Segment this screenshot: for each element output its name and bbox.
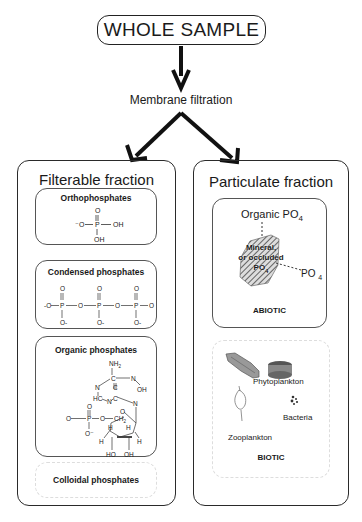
particulate-fraction-title: Particulate fraction xyxy=(194,173,348,190)
svg-text:O: O xyxy=(120,408,125,415)
bacteria-label: Bacteria xyxy=(283,413,312,422)
svg-text:O: O xyxy=(134,285,139,292)
svg-text:H: H xyxy=(99,438,104,445)
mineral-po4-label: Mineral, or occluded PO4 xyxy=(233,243,289,276)
svg-text:OH: OH xyxy=(113,221,124,228)
zooplankton-icon xyxy=(235,386,246,421)
condensed-phosphates-box: Condensed phosphates -O OPO- O OPO- O OP… xyxy=(35,260,157,329)
organic-phosphates-box: Organic phosphates NH2 C N N C OH HC N C… xyxy=(35,336,157,457)
svg-text:⁻O: ⁻O xyxy=(75,221,85,228)
svg-text:O: O xyxy=(60,285,65,292)
orthophosphates-box: Orthophosphates O ⁻O P OH OH xyxy=(35,188,157,245)
svg-text:O-: O- xyxy=(97,319,104,326)
svg-text:O-: O- xyxy=(60,319,67,326)
phytoplankton-label: Phytoplankton xyxy=(253,377,304,386)
biotic-box: Phytoplankton Bacteria Zooplankton BIOTI… xyxy=(212,340,330,478)
svg-text:O: O xyxy=(87,403,92,410)
svg-text:P: P xyxy=(97,302,101,309)
abiotic-label: ABIOTIC xyxy=(213,306,326,315)
svg-text:H: H xyxy=(126,424,131,431)
svg-text:C: C xyxy=(111,375,116,382)
flow-arrows xyxy=(0,0,362,170)
svg-text:O⁻: O⁻ xyxy=(85,430,94,437)
svg-text:CH2: CH2 xyxy=(114,415,126,424)
svg-text:O: O xyxy=(95,207,101,214)
svg-text:-O: -O xyxy=(44,302,51,309)
zooplankton-label: Zooplankton xyxy=(228,433,272,442)
svg-text:P: P xyxy=(60,302,64,309)
filterable-fraction-title: Filterable fraction xyxy=(18,171,175,188)
svg-text:C: C xyxy=(113,395,118,402)
condensed-phosphate-structure: -O OPO- O OPO- O OPO- O xyxy=(36,261,158,330)
svg-text:H: H xyxy=(137,438,142,445)
adsorbed-po4-label: PO 4 xyxy=(301,268,322,281)
svg-text:NH2: NH2 xyxy=(109,360,121,369)
abiotic-box: Organic PO4 Mineral, or occluded PO4 PO … xyxy=(212,198,327,328)
svg-text:O: O xyxy=(66,415,71,422)
svg-text:P: P xyxy=(134,302,138,309)
colloidal-phosphates-title: Colloidal phosphates xyxy=(36,475,156,485)
svg-text:OH: OH xyxy=(94,236,105,243)
down-arrow-icon xyxy=(173,46,189,88)
svg-text:N: N xyxy=(107,398,112,405)
svg-text:N: N xyxy=(133,400,138,407)
biotic-label: BIOTIC xyxy=(213,453,329,462)
svg-text:N: N xyxy=(95,384,100,391)
svg-text:P: P xyxy=(95,221,100,228)
svg-text:OH: OH xyxy=(124,451,134,458)
svg-text:P: P xyxy=(87,415,91,422)
split-arrow-icon xyxy=(127,113,238,162)
svg-text:O: O xyxy=(78,302,83,309)
svg-text:O: O xyxy=(100,415,105,422)
svg-text:OH: OH xyxy=(137,386,147,393)
svg-text:O-: O- xyxy=(134,319,141,326)
svg-text:O: O xyxy=(149,302,154,309)
svg-text:N: N xyxy=(131,375,136,382)
orthophosphate-structure: O ⁻O P OH OH xyxy=(36,189,158,246)
organic-po4-label: Organic PO4 xyxy=(241,208,303,223)
svg-text:O: O xyxy=(97,285,102,292)
colloidal-phosphates-box: Colloidal phosphates xyxy=(35,462,157,498)
svg-text:HO: HO xyxy=(106,451,116,458)
svg-text:HC: HC xyxy=(93,395,103,402)
svg-text:O: O xyxy=(115,302,120,309)
membrane-filtration-label: Membrane filtration xyxy=(0,93,362,107)
phytoplankton-diatom-icon xyxy=(226,353,259,378)
organic-phosphate-structure: NH2 C N N C OH HC N C N O O P O CH2 O O⁻… xyxy=(36,337,158,458)
bacteria-icon xyxy=(291,396,299,405)
